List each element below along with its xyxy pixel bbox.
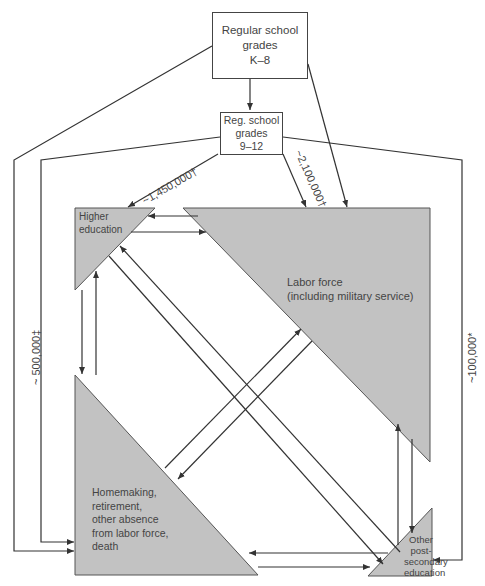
- labor-force-label: Labor force (including military service): [287, 275, 414, 303]
- regular-school-9-12-box: Reg. school grades 9–12: [220, 112, 283, 155]
- homemaking-label: Homemaking, retirement, other absence fr…: [92, 486, 168, 554]
- flow-label-homemaking: ~ 500,000‡: [30, 330, 42, 385]
- higher-education-label: Higher education: [79, 210, 122, 236]
- regular-school-k8-box: Regular school grades K–8: [212, 12, 308, 79]
- other-postsecondary-label: Other post- secondary education: [404, 534, 438, 578]
- flow-label-other-postsecondary: ~100,000*: [466, 333, 478, 383]
- labor-force-triangle: [183, 208, 430, 462]
